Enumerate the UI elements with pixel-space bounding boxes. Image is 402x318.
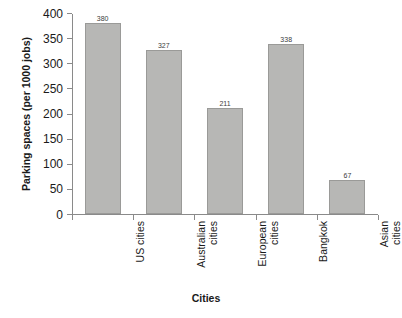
bar-value-label: 380: [97, 15, 109, 22]
bar-value-label: 338: [280, 36, 292, 43]
x-axis-title-text: Cities: [192, 292, 221, 304]
bar: 67: [329, 180, 365, 214]
y-axis-tick: 250: [67, 88, 72, 89]
y-axis-line: [72, 14, 73, 215]
y-axis-tick: 400: [67, 13, 72, 14]
y-axis-tick-label: 400: [43, 8, 63, 20]
y-axis-tick-label: 300: [43, 58, 63, 70]
x-axis-tick: [72, 215, 73, 220]
y-axis-tick-label: 350: [43, 33, 63, 45]
y-axis-tick-label: 250: [43, 83, 63, 95]
x-axis-tick: [378, 215, 379, 220]
x-axis-line: [72, 214, 378, 215]
y-axis-tick: 200: [67, 114, 72, 115]
x-axis-category-label: European cities: [257, 221, 280, 285]
plot-area: 400350300250200150100500 38032721133867: [72, 14, 378, 215]
y-axis-tick: 300: [67, 63, 72, 64]
bar: 211: [207, 108, 243, 214]
bar: 380: [85, 23, 121, 214]
y-axis-tick-label: 100: [43, 158, 63, 170]
bar: 338: [268, 44, 304, 214]
bar-value-label: 67: [343, 172, 351, 179]
x-axis-category-label: Asian cities: [379, 221, 402, 285]
y-axis-tick-label: 200: [43, 108, 63, 120]
y-axis-tick-label: 50: [50, 183, 63, 195]
bar: 327: [146, 50, 182, 214]
x-axis-category-label: US cities: [135, 221, 147, 285]
x-axis-tick: [133, 215, 134, 220]
x-axis-tick: [256, 215, 257, 220]
bar-value-label: 211: [219, 100, 230, 107]
y-axis-tick: 100: [67, 164, 72, 165]
y-axis-tick: 150: [67, 139, 72, 140]
x-axis-category-label: Australian cities: [196, 221, 219, 285]
x-axis-title: Cities: [0, 292, 384, 304]
y-axis-tick-label: 0: [56, 209, 63, 221]
y-axis-title: Parking spaces (per 1000 jobs): [20, 4, 32, 224]
bar-value-label: 327: [158, 42, 170, 49]
x-axis-tick: [317, 215, 318, 220]
x-axis-category-label: Bangkok: [318, 221, 330, 285]
y-axis-tick-label: 150: [43, 133, 63, 145]
y-axis-tick: 350: [67, 38, 72, 39]
y-axis-tick: 50: [67, 189, 72, 190]
x-axis-tick: [194, 215, 195, 220]
